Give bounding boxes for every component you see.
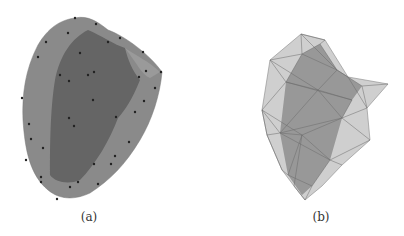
panel-a: (a) (0, 0, 202, 236)
mesh-render-b (202, 0, 404, 236)
caption-b: (b) (301, 210, 341, 224)
panel-b: (b) (202, 0, 404, 236)
surface-render-a (0, 0, 202, 236)
caption-a: (a) (69, 210, 109, 224)
